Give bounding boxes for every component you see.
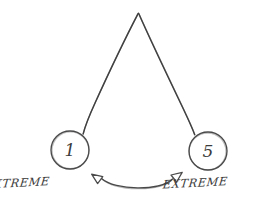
right-node-group[interactable]: 5 [189, 132, 227, 170]
sketch-canvas: 1 5 EXTREME EXTREME [0, 0, 278, 204]
right-node-value: 5 [203, 141, 214, 161]
left-node-label: EXTREME [0, 174, 51, 191]
right-node-label: EXTREME [161, 174, 229, 191]
v-shape-group [83, 13, 195, 135]
apex-to-left-node-line [83, 13, 138, 133]
double-arrow-left-head-icon [92, 174, 103, 183]
diagram-svg: 1 5 EXTREME EXTREME [0, 0, 278, 204]
left-node-group[interactable]: 1 [51, 131, 89, 169]
apex-to-left-node-line-texture [83, 15, 138, 135]
left-node-value: 1 [65, 140, 76, 160]
apex-to-right-node-line-texture [139, 15, 195, 136]
